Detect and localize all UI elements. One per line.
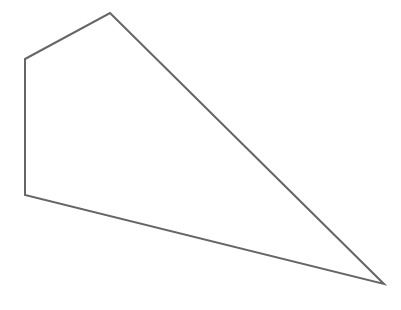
diagram-canvas [0, 0, 401, 310]
quadrilateral-shape [25, 13, 384, 284]
